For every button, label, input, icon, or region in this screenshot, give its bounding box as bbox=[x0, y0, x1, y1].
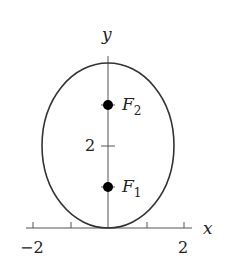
x-tick-label-2: 2 bbox=[178, 238, 188, 257]
focus-f2-label: F2 bbox=[121, 94, 141, 118]
x-axis-label: x bbox=[203, 218, 213, 238]
ellipse-diagram: y x −2 2 2 F2 F1 bbox=[0, 0, 228, 272]
x-tick-label-neg2: −2 bbox=[20, 238, 44, 257]
y-tick-label-2: 2 bbox=[85, 136, 95, 155]
focus-f1-label: F1 bbox=[121, 176, 141, 200]
y-axis-label: y bbox=[101, 24, 112, 44]
focus-f2 bbox=[101, 100, 115, 110]
focus-f1 bbox=[101, 182, 115, 192]
